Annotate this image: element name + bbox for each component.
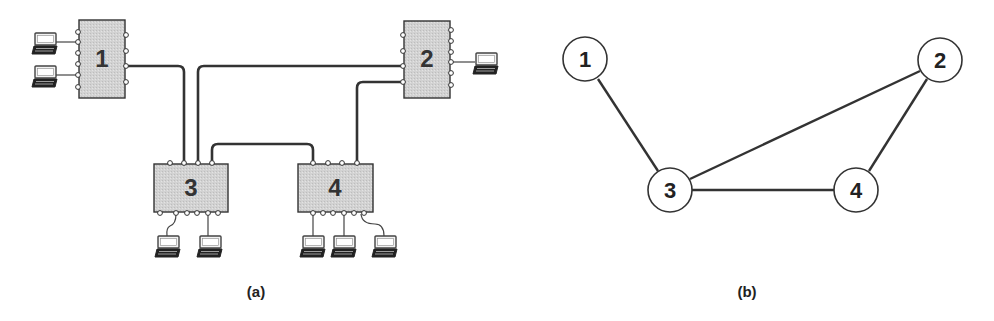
panel-b-caption: (b) — [737, 283, 756, 300]
panel-a-physical-network: 1 2 3 — [32, 20, 498, 257]
laptop-icon[interactable] — [155, 236, 180, 257]
switch-1-label: 1 — [95, 45, 108, 72]
switch-4-label: 4 — [328, 174, 342, 201]
graph-node-3[interactable]: 3 — [648, 168, 692, 212]
graph-node-1[interactable]: 1 — [563, 37, 607, 81]
laptop-icon[interactable] — [300, 236, 325, 257]
graph-node-1-label: 1 — [579, 47, 591, 72]
switch-2-label: 2 — [420, 45, 433, 72]
edge-2-4 — [869, 79, 927, 171]
laptop-icon[interactable] — [32, 33, 57, 54]
switch-4[interactable]: 4 — [298, 161, 373, 216]
graph-edges — [598, 71, 927, 190]
graph-node-2[interactable]: 2 — [918, 38, 962, 82]
edge-1-3 — [598, 79, 658, 171]
switch-3[interactable]: 3 — [154, 161, 228, 216]
laptop-icon[interactable] — [32, 66, 57, 87]
switch-1[interactable]: 1 — [76, 20, 129, 98]
laptop-icon[interactable] — [197, 236, 222, 257]
diagram-canvas: 1 2 3 — [0, 0, 994, 321]
panel-b-graph: 1 2 3 4 — [563, 37, 962, 212]
graph-node-4-label: 4 — [850, 178, 863, 203]
edge-3-2 — [690, 71, 920, 179]
panel-a-caption: (a) — [247, 283, 265, 300]
cable-switch1-switch3 — [126, 66, 184, 162]
cable-switch3-switch2 — [198, 66, 403, 162]
switch-3-label: 3 — [184, 174, 197, 201]
graph-node-2-label: 2 — [934, 48, 946, 73]
laptop-icon[interactable] — [473, 53, 498, 74]
cable-switch3-switch4 — [212, 144, 313, 162]
graph-node-3-label: 3 — [664, 178, 676, 203]
switch-cables — [126, 66, 403, 162]
graph-node-4[interactable]: 4 — [834, 168, 878, 212]
laptop-icon[interactable] — [372, 236, 397, 257]
cable-switch2-switch4 — [357, 82, 403, 162]
switch-2[interactable]: 2 — [401, 21, 454, 98]
laptop-icon[interactable] — [331, 236, 356, 257]
